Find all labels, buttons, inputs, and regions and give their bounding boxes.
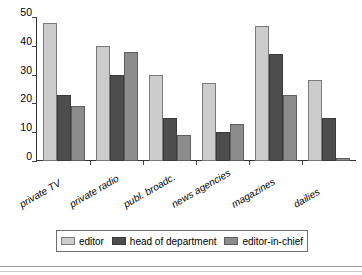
legend-label-head-of-department: head of department: [130, 236, 217, 247]
legend-item-editor: editor: [61, 236, 104, 247]
legend-swatch-head-of-department: [112, 237, 126, 245]
bar-editor-dailies: [308, 80, 322, 161]
y-tick-label: 0: [26, 151, 32, 162]
y-tick-label: 10: [20, 122, 32, 133]
category-label-news-agencies: news agencies: [170, 168, 232, 210]
bars-container: [37, 17, 356, 161]
y-axis-tick-labels: 50 40 30 20 10 0: [6, 12, 32, 160]
bar-head-of-department-news-agencies: [216, 132, 230, 161]
bar-editor-publ-broadc: [149, 75, 163, 161]
bar-group-publ-broadc: [149, 17, 191, 161]
category-label-private-radio: private radio: [68, 173, 121, 209]
bar-head-of-department-magazines: [269, 54, 283, 161]
bar-editor-in-chief-private-radio: [124, 52, 138, 161]
y-tick-label: 30: [20, 64, 32, 75]
plot-area: 50 40 30 20 10 0: [0, 0, 362, 172]
y-tick-label: 40: [20, 36, 32, 47]
y-tick-label: 50: [20, 7, 32, 18]
bar-group-news-agencies: [202, 17, 244, 161]
bar-head-of-department-private-radio: [110, 75, 124, 161]
bar-group-private-tv: [43, 17, 85, 161]
legend-label-editor-in-chief: editor-in-chief: [242, 236, 303, 247]
y-tick-mark: [32, 161, 37, 162]
legend-label-editor: editor: [79, 236, 104, 247]
bar-editor-magazines: [255, 26, 269, 161]
bar-head-of-department-private-tv: [57, 95, 71, 161]
legend-swatch-editor-in-chief: [224, 237, 238, 245]
category-label-magazines: magazines: [230, 177, 277, 210]
bar-head-of-department-publ-broadc: [163, 118, 177, 161]
legend-swatch-editor: [61, 237, 75, 245]
bar-group-private-radio: [96, 17, 138, 161]
legend-item-editor-in-chief: editor-in-chief: [224, 236, 303, 247]
category-label-publ-broadc: publ. broadc.: [122, 172, 177, 210]
bar-group-dailies: [308, 17, 350, 161]
footer-divider-bottom: [0, 271, 362, 272]
bar-editor-private-tv: [43, 23, 57, 161]
bar-group-magazines: [255, 17, 297, 161]
bar-editor-in-chief-publ-broadc: [177, 135, 191, 161]
x-axis-category-labels: private TV private radio publ. broadc. n…: [0, 163, 362, 221]
bar-editor-in-chief-magazines: [283, 95, 297, 161]
category-label-private-tv: private TV: [18, 178, 62, 209]
legend-item-head-of-department: head of department: [112, 236, 217, 247]
bar-editor-in-chief-news-agencies: [230, 124, 244, 161]
bar-editor-in-chief-dailies: [336, 158, 350, 161]
chart-legend: editor head of department editor-in-chie…: [56, 230, 308, 252]
bar-editor-in-chief-private-tv: [71, 106, 85, 161]
bar-chart-figure: 50 40 30 20 10 0: [0, 0, 362, 275]
bar-editor-private-radio: [96, 46, 110, 161]
bar-head-of-department-dailies: [322, 118, 336, 161]
y-tick-label: 20: [20, 93, 32, 104]
footer-divider-top: [0, 266, 362, 267]
bar-editor-news-agencies: [202, 83, 216, 161]
category-label-dailies: dailies: [292, 187, 322, 210]
